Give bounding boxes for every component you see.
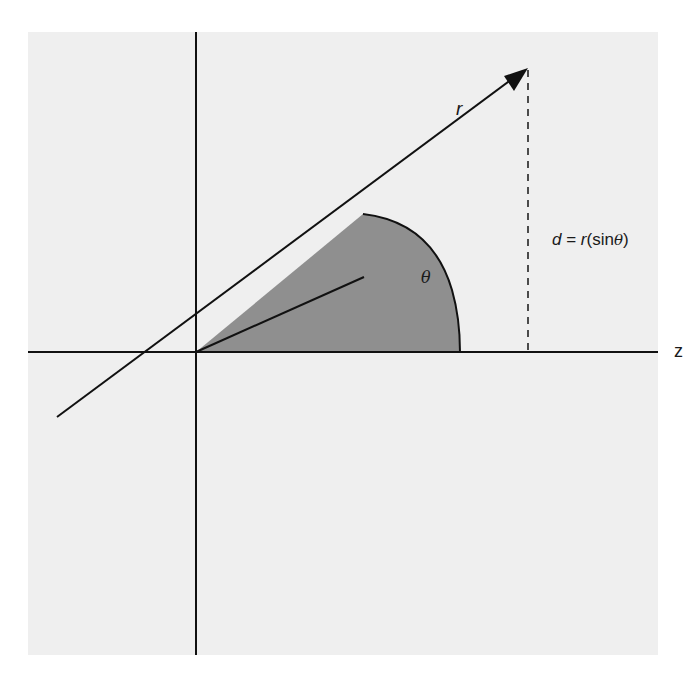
label-theta: θ xyxy=(421,268,431,287)
formula-theta: θ xyxy=(614,231,623,249)
formula-close: ) xyxy=(623,230,629,249)
radius-vector-line xyxy=(57,79,512,417)
label-d-formula: d = r(sinθ) xyxy=(552,230,629,250)
label-r: r xyxy=(456,98,462,120)
diagram-canvas xyxy=(0,0,698,680)
formula-equals: = xyxy=(561,230,580,249)
formula-sin: (sin xyxy=(587,230,614,249)
label-z-axis: z xyxy=(674,341,683,362)
arrowhead-icon xyxy=(504,68,528,91)
